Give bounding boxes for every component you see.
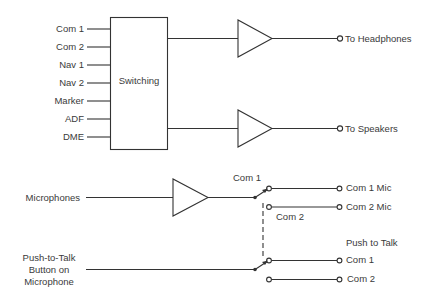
switching-label: Switching (111, 75, 167, 86)
input-label-dme: DME (30, 131, 84, 142)
output-label-headphones: To Headphones (345, 33, 412, 44)
push-to-talk-group-label: Push to Talk (346, 237, 398, 248)
ptt-label-line3: Microphone (14, 276, 84, 287)
input-label-adf: ADF (30, 113, 84, 124)
headphones-path (167, 20, 343, 57)
microphones-label: Microphones (10, 192, 80, 203)
output-label-com2-mic: Com 2 Mic (346, 201, 391, 212)
input-label-com1: Com 1 (30, 23, 84, 34)
switching-input-lines (87, 29, 110, 137)
input-label-marker: Marker (30, 95, 84, 106)
mic-switch-pivot-icon (253, 196, 257, 200)
headphones-amplifier-icon (238, 20, 272, 57)
input-label-nav1: Nav 1 (30, 59, 84, 70)
input-label-nav2: Nav 2 (30, 77, 84, 88)
output-label-speakers: To Speakers (345, 123, 398, 134)
output-label-ptt-com2: Com 2 (347, 273, 375, 284)
speakers-path (167, 110, 343, 147)
ptt-label-line1: Push-to-Talk (14, 252, 84, 263)
mic-switch-com1-label: Com 1 (233, 172, 261, 183)
ptt-switch-pivot-icon (253, 268, 257, 272)
microphone-amplifier-icon (173, 179, 208, 216)
speakers-amplifier-icon (238, 110, 272, 147)
ptt-path (86, 258, 342, 282)
output-label-com1-mic: Com 1 Mic (346, 182, 391, 193)
mic-switch-com2-label: Com 2 (276, 211, 304, 222)
ptt-label-line2: Button on (14, 264, 84, 275)
output-label-ptt-com1: Com 1 (346, 254, 374, 265)
input-label-com2: Com 2 (30, 41, 84, 52)
